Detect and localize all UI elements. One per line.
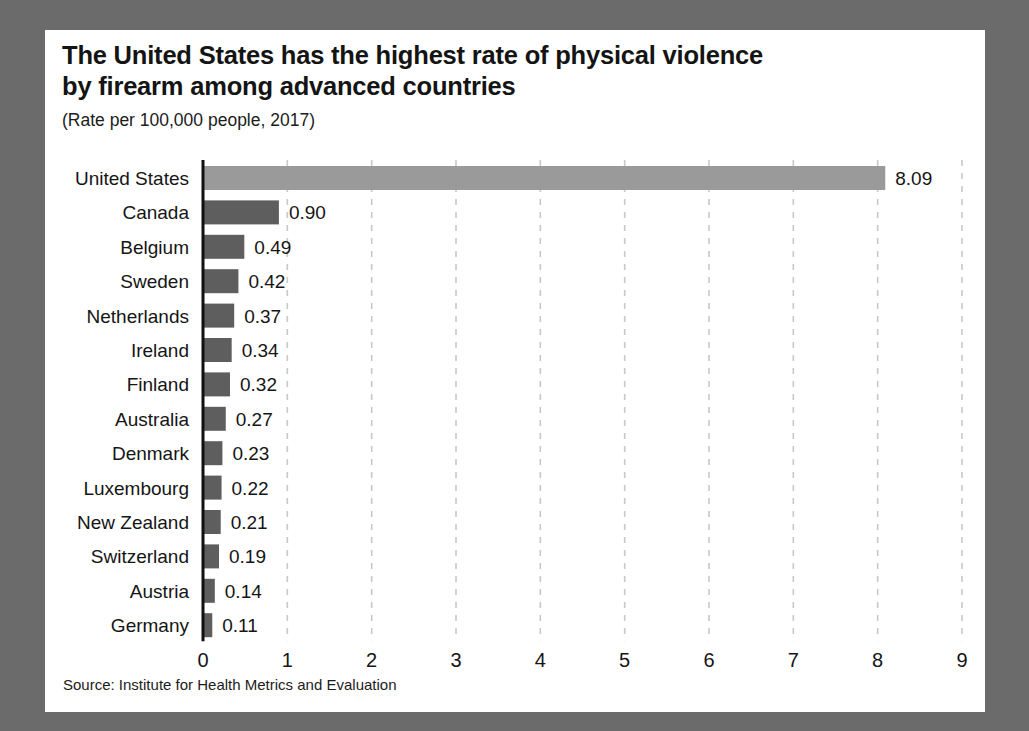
category-label: Sweden — [120, 271, 189, 292]
category-label: Switzerland — [91, 546, 189, 567]
category-label: Canada — [122, 202, 189, 223]
category-label: New Zealand — [77, 512, 189, 533]
bar-value-label: 0.49 — [254, 237, 291, 258]
bars — [203, 166, 885, 637]
x-tick-label: 8 — [872, 649, 883, 671]
x-tick-label: 7 — [788, 649, 799, 671]
bar-chart-plot: United StatesCanadaBelgiumSwedenNetherla… — [45, 160, 985, 680]
x-tick-label: 3 — [450, 649, 461, 671]
bar-value-label: 0.27 — [236, 409, 273, 430]
category-label: Germany — [111, 615, 190, 636]
bar — [203, 544, 219, 568]
bar-value-label: 0.19 — [229, 546, 266, 567]
bar — [203, 510, 221, 534]
category-label: Finland — [127, 374, 189, 395]
x-tick-label: 1 — [282, 649, 293, 671]
x-tick-label: 0 — [197, 649, 208, 671]
category-label: Austria — [130, 581, 190, 602]
bar — [203, 235, 244, 259]
x-tick-label: 6 — [703, 649, 714, 671]
category-label: Belgium — [120, 237, 189, 258]
bar — [203, 441, 222, 465]
x-axis-tick-labels: 0123456789 — [197, 649, 967, 671]
category-label: Denmark — [112, 443, 190, 464]
bar — [203, 407, 226, 431]
bar-value-label: 0.90 — [289, 202, 326, 223]
bar-value-label: 0.11 — [222, 615, 258, 636]
page-title: The United States has the highest rate o… — [62, 40, 952, 102]
chart-header: The United States has the highest rate o… — [62, 40, 952, 131]
gridlines — [287, 160, 962, 641]
bar-value-label: 8.09 — [895, 168, 932, 189]
x-tick-label: 9 — [956, 649, 967, 671]
figure-root: The United States has the highest rate o… — [0, 0, 1029, 731]
category-label: Netherlands — [87, 306, 189, 327]
bar-value-labels: 8.090.900.490.420.370.340.320.270.230.22… — [222, 168, 932, 636]
chart-card: The United States has the highest rate o… — [45, 30, 985, 712]
bar-value-label: 0.23 — [232, 443, 269, 464]
x-tick-label: 2 — [366, 649, 377, 671]
bar — [203, 579, 215, 603]
bar-value-label: 0.34 — [242, 340, 279, 361]
bar — [203, 166, 885, 190]
bar — [203, 200, 279, 224]
bar-value-label: 0.21 — [231, 512, 268, 533]
chart-svg: United StatesCanadaBelgiumSwedenNetherla… — [45, 160, 985, 680]
bar-value-label: 0.14 — [225, 581, 262, 602]
chart-subtitle: (Rate per 100,000 people, 2017) — [62, 109, 952, 131]
x-tick-label: 4 — [535, 649, 546, 671]
category-label: Ireland — [131, 340, 189, 361]
bar-value-label: 0.42 — [248, 271, 285, 292]
source-note: Source: Institute for Health Metrics and… — [63, 676, 397, 694]
bar-value-label: 0.22 — [232, 478, 269, 499]
category-label: Luxembourg — [83, 478, 189, 499]
bar — [203, 372, 230, 396]
bar-value-label: 0.37 — [244, 306, 281, 327]
bar — [203, 476, 222, 500]
category-axis-labels: United StatesCanadaBelgiumSwedenNetherla… — [75, 168, 190, 636]
category-label: Australia — [115, 409, 189, 430]
category-label: United States — [75, 168, 189, 189]
bar — [203, 269, 238, 293]
bar-value-label: 0.32 — [240, 374, 277, 395]
x-tick-label: 5 — [619, 649, 630, 671]
bar — [203, 338, 232, 362]
bar — [203, 304, 234, 328]
